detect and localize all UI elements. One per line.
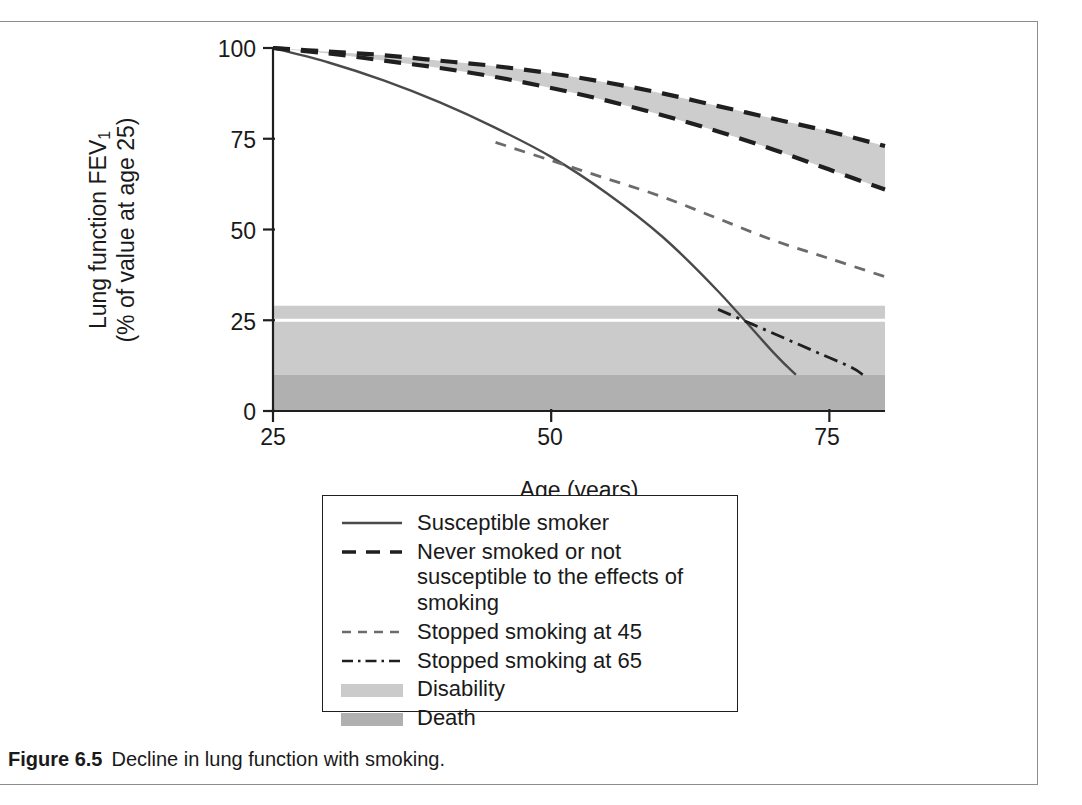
y-axis-title-line1: Lung function FEV1 [84,70,112,390]
y-axis-title: Lung function FEV1 (% of value at age 25… [84,70,140,390]
legend-item: Never smoked or not susceptible to the e… [341,539,729,616]
legend-item: Stopped smoking at 45 [341,619,729,645]
lung-function-line-chart [0,22,1038,492]
legend-item: Susceptible smoker [341,510,729,536]
figure-caption: Figure 6.5Decline in lung function with … [8,748,445,771]
legend-color-bar [341,713,403,726]
y-tick-label-50: 50 [190,220,256,243]
page-frame-bottom-line [0,784,1038,785]
legend-item-label: Susceptible smoker [417,510,609,536]
disability-band [273,306,885,375]
y-axis-title-line2: (% of value at age 25) [112,70,140,390]
x-tick-label-25: 25 [243,426,303,449]
death-band [273,375,885,411]
legend-item-label: Never smoked or not susceptible to the e… [417,539,729,616]
legend-item: Stopped smoking at 65 [341,648,729,674]
legend-color-bar [341,684,403,697]
legend-item-label: Stopped smoking at 45 [417,619,642,645]
death-swatch [341,707,403,729]
legend-item-label: Disability [417,676,505,702]
legend-line-sample-solid [341,512,403,534]
x-tick-label-75: 75 [797,426,857,449]
legend-line-sample-dash-dot [341,650,403,672]
legend-item-label: Stopped smoking at 65 [417,648,642,674]
figure-caption-label: Figure 6.5 [8,748,102,770]
figure-caption-text: Decline in lung function with smoking. [111,748,445,770]
legend-item-label: Death [417,705,476,731]
legend-item-list: Susceptible smokerNever smoked or not su… [341,510,729,734]
figure-page: 100 75 50 25 0 25 50 75 Age (years) Lung… [0,0,1082,805]
legend-item: Disability [341,676,729,702]
legend-item: Death [341,705,729,731]
y-tick-label-75: 75 [190,129,256,152]
legend-line-sample-short-dash [341,621,403,643]
y-axis-title-main: Lung function FEV [85,140,111,329]
disability-swatch [341,678,403,700]
y-tick-label-0: 0 [190,401,256,424]
chart-legend: Susceptible smokerNever smoked or not su… [322,495,738,712]
x-tick-label-50: 50 [520,426,580,449]
y-tick-label-25: 25 [190,311,256,334]
legend-line-sample-long-dash [341,541,403,563]
y-axis-title-subscript: 1 [96,131,113,140]
chart-plot-region: 100 75 50 25 0 25 50 75 Age (years) Lung… [0,22,1038,722]
y-tick-label-100: 100 [190,38,256,61]
